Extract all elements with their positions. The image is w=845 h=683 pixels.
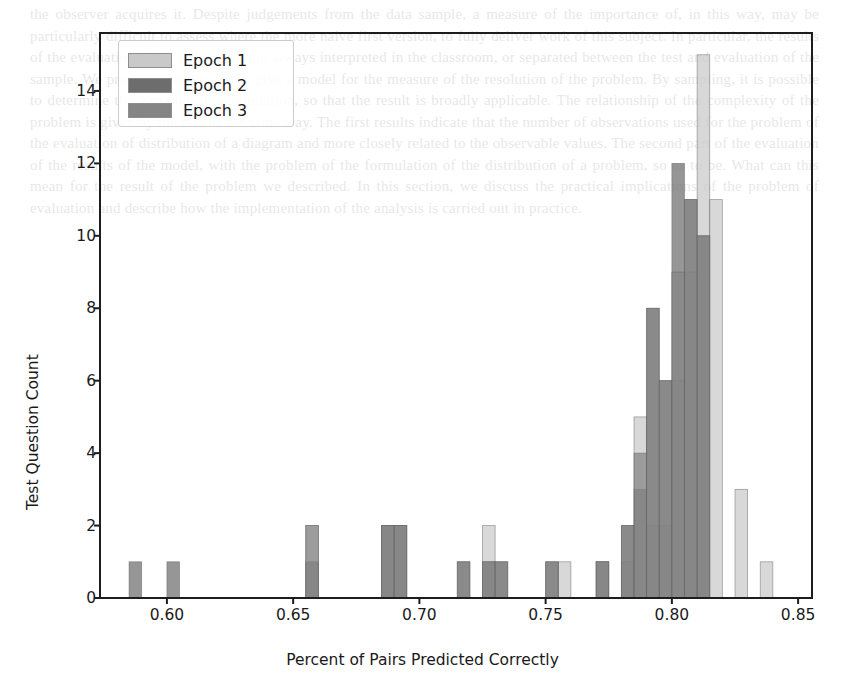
x-tick-label: 0.75 [528,606,563,624]
legend-label-epoch-1: Epoch 1 [183,51,247,70]
x-tick-label: 0.80 [655,606,690,624]
y-tick-label: 4 [10,444,96,462]
y-tick-label: 12 [10,154,96,172]
histogram-figure: 02468101214 Percent of Pairs Predicted C… [0,0,845,683]
y-axis-label: Test Question Count [24,354,42,510]
legend-item: Epoch 2 [128,73,284,98]
histogram-bar [710,200,723,598]
y-tick-label: 8 [10,299,96,317]
histogram-bar [495,562,508,598]
legend-item: Epoch 1 [128,48,284,73]
histogram-bar [167,562,180,598]
histogram-bar [685,200,698,598]
histogram-bar [558,562,571,598]
histogram-bar [394,526,407,598]
legend-swatch-epoch-2 [128,78,172,93]
y-tick-label: 0 [10,589,96,607]
histogram-bar [647,308,660,598]
histogram-bar [129,562,142,598]
x-tick-label: 0.70 [402,606,437,624]
histogram-bar [546,562,559,598]
y-tick-label: 14 [10,82,96,100]
legend-label-epoch-2: Epoch 2 [183,76,247,95]
histogram-bar [697,236,710,598]
x-tick-label: 0.85 [781,606,816,624]
histogram-bar [306,526,319,598]
legend-swatch-epoch-3 [128,103,172,118]
histogram-bar [382,526,395,598]
legend-label-epoch-3: Epoch 3 [183,101,247,120]
legend-swatch-epoch-1 [128,53,172,68]
histogram-bar [457,562,470,598]
y-tick-label: 6 [10,372,96,390]
histogram-bar [672,272,685,598]
legend: Epoch 1 Epoch 2 Epoch 3 [118,40,294,127]
x-tick-label: 0.60 [150,606,185,624]
histogram-bar [735,489,748,598]
histogram-bar [760,562,773,598]
y-axis-tick-labels: 02468101214 [0,0,96,683]
histogram-bar [596,562,609,598]
histogram-bar [483,562,496,598]
histogram-bar [621,526,634,598]
bars-layer [129,55,773,598]
y-tick-label: 2 [10,517,96,535]
x-axis-label: Percent of Pairs Predicted Correctly [0,651,845,669]
y-tick-label: 10 [10,227,96,245]
histogram-bar [659,381,672,598]
legend-item: Epoch 3 [128,98,284,123]
histogram-bar [634,453,647,598]
x-tick-label: 0.65 [276,606,311,624]
